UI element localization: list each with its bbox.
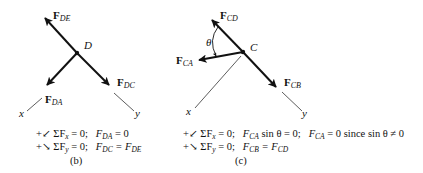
label-f-cb: FCB bbox=[284, 77, 301, 90]
force-da-arrow bbox=[47, 53, 77, 85]
equation-c-2: +↘ ΣFy = 0; FCB = FCD bbox=[183, 140, 288, 156]
force-dc-arrow bbox=[77, 53, 109, 85]
label-f-cd: FCD bbox=[220, 10, 238, 23]
label-node-c: C bbox=[250, 42, 257, 53]
y-axis-line-b bbox=[114, 93, 134, 111]
equation-b-2: +↘ ΣFy = 0; FDC = FDE bbox=[36, 140, 141, 156]
node-c-joint bbox=[241, 50, 245, 54]
force-ca-arrow bbox=[199, 52, 243, 60]
node-d-joint bbox=[75, 51, 79, 55]
figure-c-diagram bbox=[195, 20, 302, 111]
y-axis-line-c bbox=[282, 92, 302, 111]
label-node-d: D bbox=[84, 40, 92, 51]
force-cb-arrow bbox=[243, 52, 276, 87]
x-axis-line-c bbox=[195, 56, 241, 108]
label-x-axis-b: x bbox=[19, 108, 24, 119]
label-y-axis-b: y bbox=[135, 108, 140, 119]
label-y-axis-c: y bbox=[302, 108, 307, 119]
label-x-axis-c: x bbox=[186, 106, 191, 117]
x-axis-line-b bbox=[27, 98, 42, 111]
label-f-de: FDE bbox=[53, 10, 70, 23]
force-cd-arrow bbox=[212, 20, 243, 52]
force-de-arrow bbox=[45, 18, 77, 53]
caption-c: (c) bbox=[235, 155, 247, 166]
label-f-da: FDA bbox=[45, 94, 62, 107]
label-f-ca: FCA bbox=[176, 55, 193, 68]
label-theta: θ bbox=[206, 37, 211, 48]
theta-angle-arc bbox=[212, 27, 218, 56]
label-f-dc: FDC bbox=[117, 77, 135, 90]
figure-b-diagram bbox=[27, 18, 134, 111]
caption-b: (b) bbox=[70, 155, 82, 166]
